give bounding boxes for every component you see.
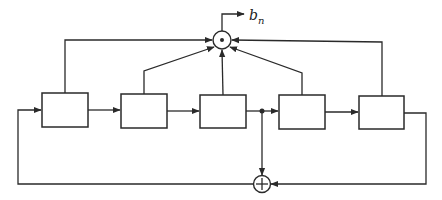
multiplier-node bbox=[213, 31, 231, 49]
xor-node bbox=[254, 176, 271, 193]
stage-5-box bbox=[359, 96, 404, 129]
stage-2-box bbox=[121, 94, 167, 128]
stage-4-box bbox=[279, 95, 325, 129]
shift-register-diagram: bn bbox=[0, 0, 442, 200]
stage-3-box bbox=[200, 95, 246, 128]
dot-icon bbox=[220, 38, 224, 42]
output-wire bbox=[222, 14, 244, 31]
stage-1-box bbox=[42, 93, 88, 127]
output-label: bn bbox=[249, 7, 264, 26]
